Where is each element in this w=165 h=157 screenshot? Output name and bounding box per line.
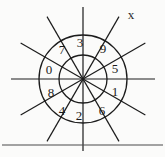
sector-label-5: 5 — [112, 61, 119, 76]
sector-label-4: 4 — [59, 103, 66, 118]
axis-label-x: x — [128, 7, 135, 22]
sector-label-0: 0 — [46, 62, 53, 77]
sector-label-6: 6 — [99, 103, 106, 118]
sector-label-1: 1 — [112, 84, 119, 99]
spoked-annulus-diagram: 3951624807 x — [0, 0, 165, 157]
figure-container: 3951624807 x — [0, 0, 165, 157]
sector-label-2: 2 — [76, 108, 83, 123]
spokes-group — [11, 7, 155, 151]
sector-label-9: 9 — [100, 41, 107, 56]
sector-label-3: 3 — [77, 35, 84, 50]
sector-label-7: 7 — [59, 42, 66, 57]
sector-label-8: 8 — [48, 85, 55, 100]
